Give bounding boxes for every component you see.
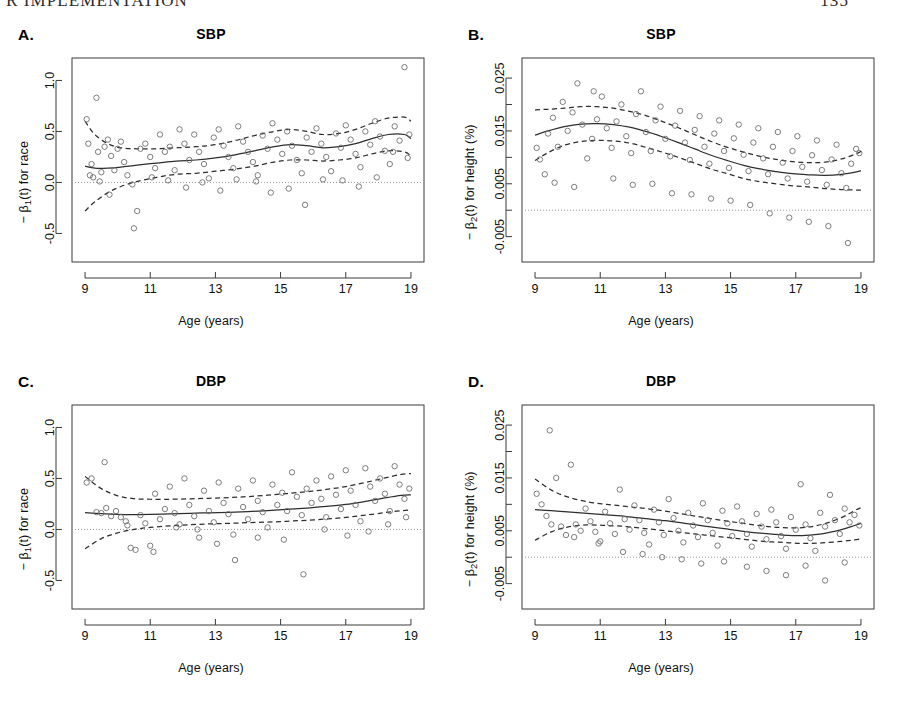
x-axis-label-b: Age (years) xyxy=(450,314,900,328)
svg-text:1.0: 1.0 xyxy=(43,419,57,436)
svg-text:13: 13 xyxy=(658,629,672,643)
svg-text:15: 15 xyxy=(724,282,738,296)
panel-a: A. SBP 91113151719-0.50.00.51.0 − β1(t) … xyxy=(0,14,450,361)
svg-text:19: 19 xyxy=(854,282,868,296)
svg-text:0.0: 0.0 xyxy=(43,174,57,191)
plot-area-d: 91113151719-0.0050.0050.0150.025 xyxy=(450,361,900,708)
svg-text:0.025: 0.025 xyxy=(493,62,507,93)
panel-d: D. DBP 91113151719-0.0050.0050.0150.025 … xyxy=(450,361,900,708)
svg-text:11: 11 xyxy=(594,282,607,296)
svg-text:0.005: 0.005 xyxy=(493,168,507,199)
svg-text:0.025: 0.025 xyxy=(493,409,507,440)
svg-text:15: 15 xyxy=(724,629,738,643)
panel-b: B. SBP 91113151719-0.0050.0050.0150.025 … xyxy=(450,14,900,361)
svg-text:9: 9 xyxy=(532,282,539,296)
plot-area-c: 91113151719-0.50.00.51.0 xyxy=(0,361,450,708)
figure-grid: A. SBP 91113151719-0.50.00.51.0 − β1(t) … xyxy=(0,14,901,708)
svg-text:0.5: 0.5 xyxy=(43,470,57,487)
x-axis-label-a: Age (years) xyxy=(0,314,450,328)
plot-area-b: 91113151719-0.0050.0050.0150.025 xyxy=(450,14,900,361)
svg-text:13: 13 xyxy=(208,282,222,296)
svg-text:17: 17 xyxy=(789,282,803,296)
y-axis-label-d: − β2(t) for height (%) xyxy=(463,454,480,604)
svg-text:11: 11 xyxy=(594,629,607,643)
x-axis-label-c: Age (years) xyxy=(0,661,450,675)
svg-text:-0.005: -0.005 xyxy=(493,219,507,254)
header-title: R IMPLEMENTATION xyxy=(6,0,188,11)
svg-text:19: 19 xyxy=(404,282,418,296)
svg-text:15: 15 xyxy=(274,629,288,643)
y-axis-label-c: − β1(t) for race xyxy=(17,454,34,604)
x-axis-label-d: Age (years) xyxy=(450,661,900,675)
svg-text:15: 15 xyxy=(274,282,288,296)
running-header: R IMPLEMENTATION 135 xyxy=(0,0,901,11)
svg-text:0.015: 0.015 xyxy=(493,115,507,146)
svg-text:9: 9 xyxy=(532,629,539,643)
svg-text:19: 19 xyxy=(404,629,418,643)
svg-text:0.015: 0.015 xyxy=(493,462,507,493)
plot-area-a: 91113151719-0.50.00.51.0 xyxy=(0,14,450,361)
svg-text:19: 19 xyxy=(854,629,868,643)
panel-c: C. DBP 91113151719-0.50.00.51.0 − β1(t) … xyxy=(0,361,450,708)
svg-text:17: 17 xyxy=(789,629,803,643)
svg-text:-0.005: -0.005 xyxy=(493,566,507,601)
svg-text:1.0: 1.0 xyxy=(43,72,57,89)
svg-text:17: 17 xyxy=(339,629,353,643)
svg-text:17: 17 xyxy=(339,282,353,296)
svg-text:11: 11 xyxy=(144,629,157,643)
svg-text:-0.5: -0.5 xyxy=(43,223,57,245)
svg-text:0.5: 0.5 xyxy=(43,123,57,140)
svg-text:9: 9 xyxy=(82,282,89,296)
svg-text:0.0: 0.0 xyxy=(43,521,57,538)
svg-text:9: 9 xyxy=(82,629,89,643)
y-axis-label-b: − β2(t) for height (%) xyxy=(463,107,480,257)
svg-text:-0.5: -0.5 xyxy=(43,570,57,592)
page-number: 135 xyxy=(820,0,849,11)
svg-text:11: 11 xyxy=(144,282,157,296)
y-axis-label-a: − β1(t) for race xyxy=(17,107,34,257)
svg-text:0.005: 0.005 xyxy=(493,515,507,546)
svg-text:13: 13 xyxy=(658,282,672,296)
svg-text:13: 13 xyxy=(208,629,222,643)
